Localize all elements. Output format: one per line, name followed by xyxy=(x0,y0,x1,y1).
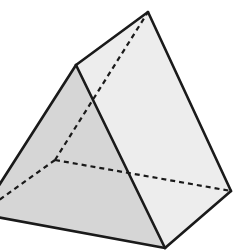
triangular-prism-diagram xyxy=(0,0,247,250)
